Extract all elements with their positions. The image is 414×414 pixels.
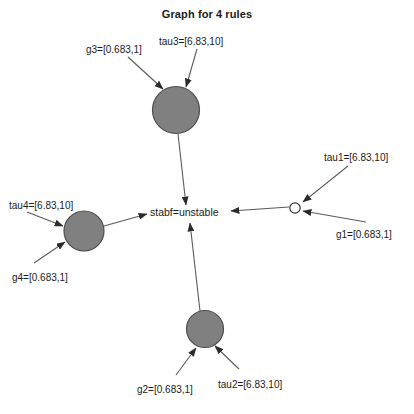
graph-node-rule1[interactable] <box>290 203 300 213</box>
edge-g4-to-rule4 <box>34 242 65 263</box>
edge-tau3-to-rule3 <box>186 49 197 87</box>
graph-node-rule2[interactable] <box>187 311 224 348</box>
edge-rule4-to-center <box>104 214 147 226</box>
edge-tau2-to-rule2 <box>215 346 239 369</box>
condition-label-tau3: tau3=[6.83,10] <box>159 36 223 47</box>
graph-node-rule4[interactable] <box>64 211 104 251</box>
condition-label-g4: g4=[0.683,1] <box>12 272 68 283</box>
condition-label-g3: g3=[0.683,1] <box>86 44 142 55</box>
edge-g2-to-rule2 <box>176 348 196 375</box>
graph-node-rule3[interactable] <box>153 87 200 134</box>
edge-g3-to-rule3 <box>128 57 163 89</box>
edge-g1-to-rule1 <box>303 211 366 222</box>
condition-label-tau2: tau2=[6.83,10] <box>218 379 282 390</box>
edge-tau4-to-rule4 <box>27 212 63 226</box>
center-node-label: stabf=unstable <box>150 206 219 218</box>
graph-canvas: Graph for 4 rules stabf=unstable g3=[0.6… <box>0 0 414 414</box>
edge-tau1-to-rule1 <box>303 166 348 202</box>
edge-rule2-to-center <box>190 223 200 311</box>
condition-label-g2: g2=[0.683,1] <box>137 384 193 395</box>
condition-label-tau1: tau1=[6.83,10] <box>324 152 388 163</box>
edge-rule1-to-center <box>231 207 289 211</box>
condition-label-tau4: tau4=[6.83,10] <box>9 200 73 211</box>
condition-label-g1: g1=[0.683,1] <box>336 229 392 240</box>
edge-rule3-to-center <box>178 134 186 205</box>
